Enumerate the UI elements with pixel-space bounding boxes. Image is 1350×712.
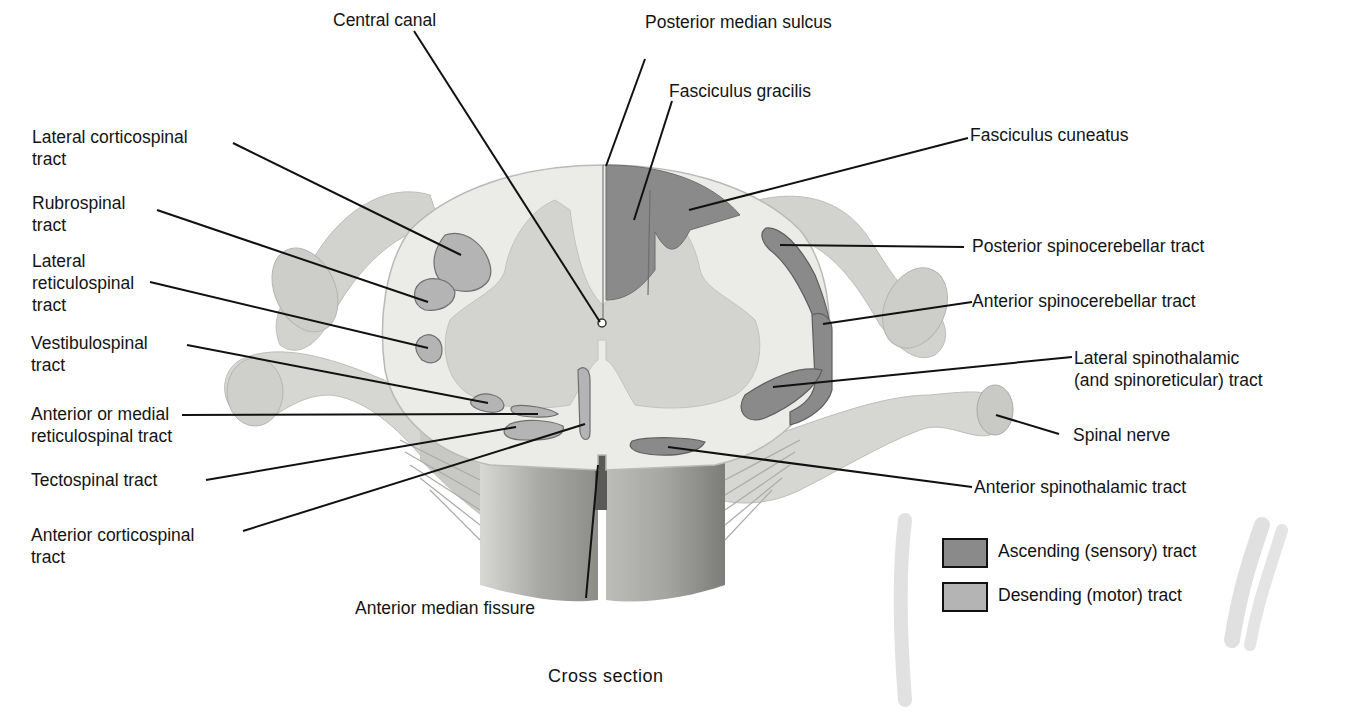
label-spinal-nerve: Spinal nerve	[1073, 424, 1170, 446]
legend-label: Ascending (sensory) tract	[998, 541, 1196, 562]
figure-caption: Cross section	[548, 666, 664, 687]
label-posterior-median-sulcus: Posterior median sulcus	[645, 11, 832, 33]
legend-label: Desending (motor) tract	[998, 585, 1182, 606]
label-line: Vestibulospinal	[31, 332, 148, 354]
label-line: Anterior or medial	[31, 403, 172, 425]
descending-swatch	[942, 582, 988, 612]
label-central-canal: Central canal	[333, 9, 436, 31]
ascending-swatch	[942, 538, 988, 568]
label-anterior-spinothalamic-tract: Anterior spinothalamic tract	[974, 476, 1186, 498]
label-line: Lateral	[32, 250, 134, 272]
label-line: reticulospinal	[32, 272, 134, 294]
label-lateral-reticulospinal-tract: Lateral reticulospinal tract	[32, 250, 134, 316]
label-fasciculus-cuneatus: Fasciculus cuneatus	[970, 124, 1129, 146]
label-vestibulospinal-tract: Vestibulospinal tract	[31, 332, 148, 376]
label-anterior-medial-reticulospinal-tract: Anterior or medial reticulospinal tract	[31, 403, 172, 447]
label-line: tract	[32, 294, 134, 316]
label-tectospinal-tract: Tectospinal tract	[31, 469, 157, 491]
label-posterior-spinocerebellar-tract: Posterior spinocerebellar tract	[972, 235, 1204, 257]
label-fasciculus-gracilis: Fasciculus gracilis	[669, 80, 811, 102]
label-anterior-median-fissure: Anterior median fissure	[355, 597, 535, 619]
label-line: Anterior corticospinal	[31, 524, 194, 546]
label-line-part: (and spinoreticular)	[1074, 370, 1224, 390]
label-line: Rubrospinal	[32, 192, 125, 214]
label-line: reticulospinal tract	[31, 425, 172, 447]
label-line: (and spinoreticular) tract	[1074, 369, 1263, 391]
label-line: tract	[32, 148, 188, 170]
label-line: Lateral corticospinal	[32, 126, 188, 148]
label-anterior-corticospinal-tract: Anterior corticospinal tract	[31, 524, 194, 568]
label-line-part: tract	[1229, 370, 1263, 390]
spinal-cord-cross-section-diagram: Central canal Posterior median sulcus Fa…	[0, 0, 1350, 712]
label-rubrospinal-tract: Rubrospinal tract	[32, 192, 125, 236]
label-line: tract	[31, 546, 194, 568]
label-line: tract	[31, 354, 148, 376]
label-lateral-corticospinal-tract: Lateral corticospinal tract	[32, 126, 188, 170]
cord-cross-section	[382, 165, 829, 470]
label-lateral-spinothalamic-tract: Lateral spinothalamic (and spinoreticula…	[1074, 347, 1263, 391]
label-line: Lateral spinothalamic	[1074, 347, 1263, 369]
label-line: tract	[32, 214, 125, 236]
label-anterior-spinocerebellar-tract: Anterior spinocerebellar tract	[972, 290, 1196, 312]
